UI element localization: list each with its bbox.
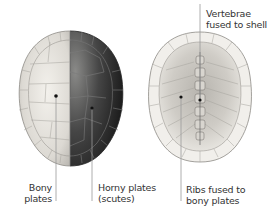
label-ribs-line1: Ribs fused to bbox=[186, 184, 245, 195]
bony-half bbox=[19, 31, 70, 166]
label-ribs-fused: Ribs fused to bony plates bbox=[186, 184, 245, 206]
label-horny-line1: Horny plates bbox=[98, 182, 156, 193]
label-ribs-line2: bony plates bbox=[186, 195, 245, 206]
label-horny-plates: Horny plates (scutes) bbox=[98, 182, 156, 204]
label-horny-line2: (scutes) bbox=[98, 193, 156, 204]
label-bony-line2: plates bbox=[14, 193, 52, 204]
label-bony-plates: Bony plates bbox=[14, 182, 52, 204]
carapace-exterior bbox=[19, 31, 123, 166]
label-vert-line2: fused to shell bbox=[206, 19, 267, 30]
label-bony-line1: Bony bbox=[14, 182, 52, 193]
label-vertebrae-fused: Vertebrae fused to shell bbox=[206, 8, 267, 30]
label-vert-line1: Vertebrae bbox=[206, 8, 267, 19]
horny-half bbox=[70, 31, 123, 166]
